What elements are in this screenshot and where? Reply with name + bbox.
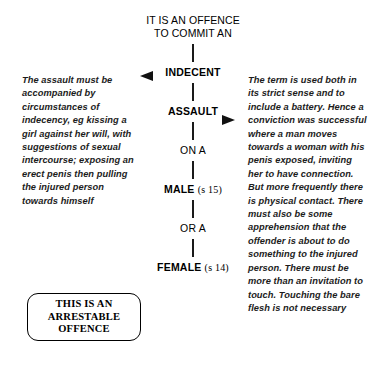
node-female-label: FEMALE <box>157 261 201 273</box>
connector-ora-to-female <box>192 239 194 257</box>
connector-ona-to-male <box>192 161 194 179</box>
diagram-title: IT IS AN OFFENCE TO COMMIT AN <box>118 14 268 40</box>
arrestable-offence-box: THIS IS AN ARRESTABLE OFFENCE <box>27 293 141 341</box>
flow-column: IT IS AN OFFENCE TO COMMIT AN INDECENT A… <box>118 14 268 274</box>
node-male-section: (s 15) <box>198 184 222 195</box>
node-assault: ASSAULT <box>118 105 268 118</box>
node-or-a-label: OR A <box>180 222 206 234</box>
node-male: MALE (s 15) <box>118 183 268 196</box>
node-on-a-label: ON A <box>180 144 206 156</box>
connector-indecent-to-assault <box>192 83 194 101</box>
annotation-right: The term is used both in its strict sens… <box>248 74 368 315</box>
node-female: FEMALE (s 14) <box>118 261 268 274</box>
diagram-canvas: IT IS AN OFFENCE TO COMMIT AN INDECENT A… <box>0 0 378 366</box>
left-triangle-marker-icon <box>140 71 153 81</box>
connector-male-to-ora <box>192 200 194 218</box>
node-on-a: ON A <box>118 144 268 157</box>
annotation-left: The assault must be accompanied by circu… <box>22 74 140 208</box>
connector-title-to-indecent <box>192 44 194 62</box>
node-female-section: (s 14) <box>205 262 229 273</box>
right-triangle-marker-icon <box>222 115 235 125</box>
node-indecent-label: INDECENT <box>165 66 220 78</box>
node-assault-label: ASSAULT <box>168 105 218 117</box>
arrestable-offence-text: THIS IS AN ARRESTABLE OFFENCE <box>48 298 120 336</box>
connector-assault-to-ona <box>192 122 194 140</box>
node-or-a: OR A <box>118 222 268 235</box>
node-male-label: MALE <box>164 183 195 195</box>
